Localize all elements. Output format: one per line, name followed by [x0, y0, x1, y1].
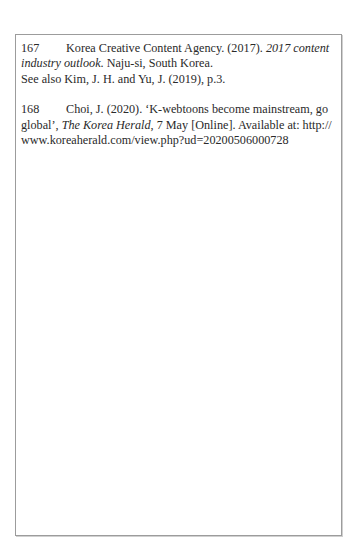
footnote-line: 167Korea Creative Content Agency. (2017)… [21, 41, 337, 56]
footnote-title: 2017 content [266, 41, 329, 55]
footnote-line: See also Kim, J. H. and Yu, J. (2019), p… [21, 72, 337, 87]
footnote-line: industry outlook. Naju-si, South Korea. [21, 56, 337, 71]
footnote-number: 167 [21, 41, 66, 56]
footnote-title: industry outlook [21, 56, 101, 70]
footnote-text: , 7 May [Online]. Available at: http:// [151, 118, 332, 132]
publication-title: The Korea Herald [62, 118, 151, 132]
footnote-url: www.koreaherald.com/view.php?ud=20200506… [21, 133, 337, 148]
footnote-168: 168Choi, J. (2020). ‘K-webtoons become m… [21, 102, 337, 148]
footnote-text: global’, [21, 118, 62, 132]
footnotes-section: 167Korea Creative Content Agency. (2017)… [21, 41, 337, 163]
footnote-text: Choi, J. (2020). ‘K-webtoons become main… [66, 102, 328, 116]
footnote-number: 168 [21, 102, 66, 117]
footnote-line: 168Choi, J. (2020). ‘K-webtoons become m… [21, 102, 337, 117]
footnote-167: 167Korea Creative Content Agency. (2017)… [21, 41, 337, 87]
footnote-text: . Naju-si, South Korea. [101, 56, 213, 70]
footnote-line: global’, The Korea Herald, 7 May [Online… [21, 118, 337, 133]
footnote-text: Korea Creative Content Agency. (2017). [66, 41, 266, 55]
